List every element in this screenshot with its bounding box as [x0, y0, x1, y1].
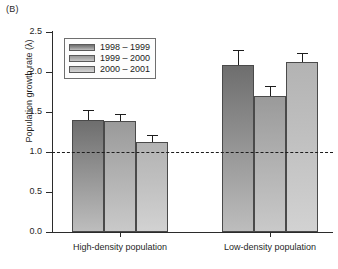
legend-item: 1998 – 1999	[69, 42, 150, 53]
y-tick	[46, 32, 52, 33]
x-group-label: High-density population	[50, 242, 190, 252]
y-tick	[46, 112, 52, 113]
y-axis-line	[52, 31, 53, 233]
x-axis-line	[52, 232, 333, 233]
x-group-label: Low-density population	[200, 242, 338, 252]
y-tick-label: 0.5	[12, 186, 42, 196]
error-bar-line	[120, 114, 121, 121]
legend-label: 1999 – 2000	[100, 53, 150, 64]
legend: 1998 – 19991999 – 20002000 – 2001	[64, 38, 156, 79]
legend-swatch	[69, 55, 95, 62]
y-tick-label: 1.5	[12, 106, 42, 116]
error-bar-cap	[115, 114, 126, 115]
figure-panel-b: (B) Population growth rate (λ) 0.00.51.0…	[0, 0, 338, 269]
legend-item: 2000 – 2001	[69, 64, 150, 75]
bar	[104, 121, 136, 232]
error-bar-cap	[297, 53, 308, 54]
error-bar-cap	[233, 50, 244, 51]
error-bar-cap	[265, 86, 276, 87]
bar	[222, 65, 254, 232]
error-bar-line	[270, 86, 271, 96]
legend-swatch	[69, 44, 95, 51]
error-bar-cap	[83, 110, 94, 111]
panel-label: (B)	[6, 4, 19, 14]
error-bar-line	[302, 53, 303, 62]
legend-item: 1999 – 2000	[69, 53, 150, 64]
x-tick	[270, 232, 271, 237]
y-tick-label: 2.5	[12, 26, 42, 36]
y-tick	[46, 192, 52, 193]
error-bar-line	[238, 50, 239, 64]
bar	[286, 62, 318, 232]
y-tick-label: 2.0	[12, 66, 42, 76]
bar	[72, 120, 104, 232]
legend-label: 2000 – 2001	[100, 64, 150, 75]
bar	[136, 142, 168, 232]
x-tick	[120, 232, 121, 237]
bar	[254, 96, 286, 232]
error-bar-line	[88, 110, 89, 120]
y-tick-label: 1.0	[12, 146, 42, 156]
y-tick-label: 0.0	[12, 226, 42, 236]
reference-line-at-one	[52, 152, 333, 153]
error-bar-cap	[147, 135, 158, 136]
legend-label: 1998 – 1999	[100, 42, 150, 53]
y-tick	[46, 72, 52, 73]
legend-swatch	[69, 66, 95, 73]
y-tick	[46, 232, 52, 233]
